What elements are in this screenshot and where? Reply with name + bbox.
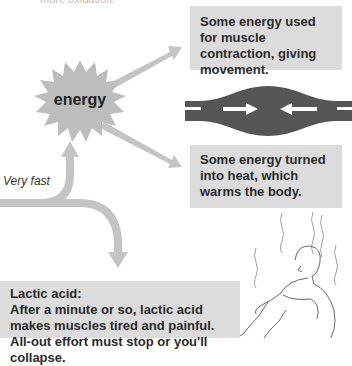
lactic-acid-box: Lactic acid: After a minute or so, lacti… xyxy=(0,281,240,338)
lactic-acid-text: After a minute or so, lactic acid makes … xyxy=(10,302,230,366)
lactic-path-icon xyxy=(40,203,118,255)
very-fast-label: Very fast xyxy=(3,174,50,188)
movement-box: Some energy used for muscle contraction,… xyxy=(190,6,342,70)
exhausted-person-icon xyxy=(240,212,338,338)
muscle-contraction-icon xyxy=(185,86,352,136)
heat-text: Some energy turned into heat, which warm… xyxy=(200,152,326,199)
energy-label: energy xyxy=(40,91,120,109)
arrow-to-heat-icon xyxy=(100,122,182,168)
movement-text: Some energy used for muscle contraction,… xyxy=(200,14,316,77)
heat-box: Some energy turned into heat, which warm… xyxy=(190,145,342,208)
lactic-acid-title: Lactic acid: xyxy=(10,286,230,302)
